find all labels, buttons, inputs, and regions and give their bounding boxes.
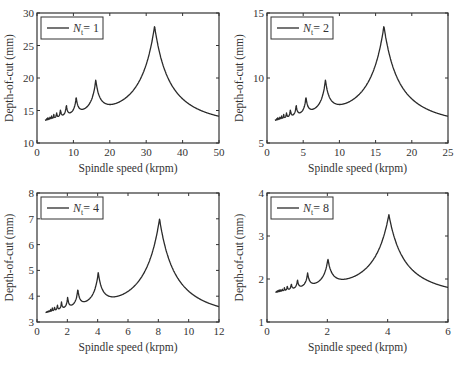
y-tick-label: 1 — [259, 316, 265, 328]
x-tick-label: 4 — [385, 325, 391, 337]
stability-lobe-figure: 010203040501015202530 Nt= 1 Spindle spee… — [0, 0, 455, 368]
stability-lobe-curve — [45, 27, 219, 121]
legend-label: Nt= 1 — [72, 21, 99, 37]
x-tick-label: 2 — [325, 325, 331, 337]
y-tick-label: 10 — [253, 72, 265, 84]
chart-panel-nt-2: 051015202551015 Nt= 2 Spindle speed (krp… — [233, 7, 454, 175]
chart-panel-nt-8: 02461234 Nt= 8 Spindle speed (krpm) Dept… — [233, 187, 451, 354]
y-axis-label: Depth-of-cut (mm) — [233, 34, 246, 122]
y-axis-label: Depth-of-cut (mm) — [3, 213, 16, 301]
x-axis-label: Spindle speed (krpm) — [78, 162, 177, 175]
x-tick-label: 0 — [34, 325, 40, 337]
legend: Nt= 4 — [41, 197, 103, 219]
y-tick-label: 6 — [29, 239, 35, 251]
y-tick-label: 4 — [29, 290, 35, 302]
x-tick-label: 6 — [445, 325, 451, 337]
y-tick-label: 2 — [259, 273, 265, 285]
y-tick-label: 3 — [259, 230, 265, 242]
y-tick-label: 15 — [253, 7, 265, 19]
y-axis-label: Depth-of-cut (mm) — [3, 34, 16, 122]
legend-label: Nt= 2 — [302, 21, 329, 37]
y-tick-label: 10 — [23, 137, 35, 149]
x-tick-label: 20 — [406, 146, 418, 158]
legend: Nt= 1 — [41, 17, 103, 39]
legend-label: Nt= 8 — [302, 201, 329, 217]
x-axis-label: Spindle speed (krpm) — [78, 341, 177, 354]
x-tick-label: 0 — [264, 325, 270, 337]
x-tick-label: 30 — [141, 146, 153, 158]
x-tick-label: 25 — [443, 146, 455, 158]
x-tick-label: 0 — [34, 146, 40, 158]
y-tick-label: 7 — [29, 213, 35, 225]
legend: Nt= 8 — [271, 197, 333, 219]
x-tick-label: 40 — [177, 146, 189, 158]
chart-panel-nt-1: 010203040501015202530 Nt= 1 Spindle spee… — [3, 7, 225, 175]
y-tick-label: 20 — [23, 72, 35, 84]
y-tick-label: 3 — [29, 316, 35, 328]
x-tick-label: 6 — [125, 325, 131, 337]
x-axis-label: Spindle speed (krpm) — [308, 162, 407, 175]
y-tick-label: 5 — [259, 137, 265, 149]
x-tick-label: 12 — [214, 325, 225, 337]
legend: Nt= 2 — [271, 17, 333, 39]
y-axis-label: Depth-of-cut (mm) — [233, 213, 246, 301]
y-tick-label: 25 — [23, 40, 35, 52]
x-tick-label: 10 — [334, 146, 346, 158]
y-tick-label: 8 — [29, 187, 35, 199]
x-tick-label: 20 — [104, 146, 116, 158]
x-tick-label: 10 — [183, 325, 195, 337]
x-tick-label: 0 — [264, 146, 270, 158]
stability-lobe-curve — [276, 215, 448, 293]
legend-label: Nt= 4 — [72, 201, 99, 217]
y-tick-label: 30 — [23, 7, 35, 19]
stability-lobe-curve — [275, 27, 448, 121]
y-tick-label: 4 — [259, 187, 265, 199]
x-tick-label: 10 — [68, 146, 80, 158]
x-axis-label: Spindle speed (krpm) — [308, 341, 407, 354]
x-tick-label: 2 — [65, 325, 71, 337]
chart-panel-nt-4: 024681012345678 Nt= 4 Spindle speed (krp… — [3, 187, 225, 354]
x-tick-label: 15 — [370, 146, 382, 158]
x-tick-label: 5 — [300, 146, 306, 158]
x-tick-label: 50 — [214, 146, 226, 158]
x-tick-label: 8 — [156, 325, 162, 337]
y-tick-label: 5 — [29, 264, 35, 276]
y-tick-label: 15 — [23, 105, 35, 117]
stability-lobe-curve — [46, 219, 219, 312]
x-tick-label: 4 — [95, 325, 101, 337]
